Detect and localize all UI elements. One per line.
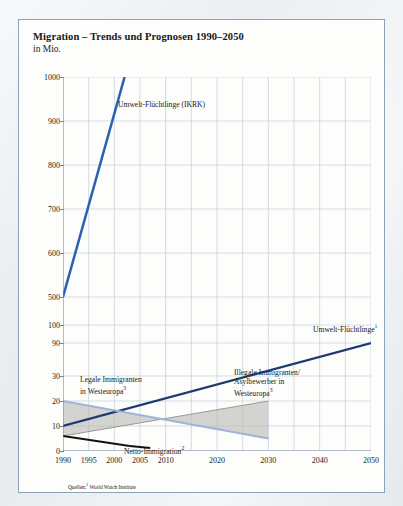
y-tick-1000: 1000 [44,73,60,82]
annotation-umwelt-right-text: Umwelt-Flüchtlinge [313,325,375,334]
chart-title: Migration – Trends und Prognosen 1990–20… [33,31,244,42]
figure-panel: Migration – Trends und Prognosen 1990–20… [18,19,385,493]
footnote-1-text: World Watch Institute [90,484,136,490]
annotation-legale-line1: Legale Immigranten [80,375,142,384]
footnote-1: Quellen:1 World Watch Institute [68,481,385,491]
annotation-umwelt-ikrk: Umwelt-Flüchtlinge (IKRK) [118,100,205,109]
x-tick-2010: 2010 [158,456,174,465]
footnote-quellen-label: Quellen: [68,484,86,490]
annotation-legale-immigranten: Legale Immigrantenin Westeuropa3 [80,375,142,396]
annotation-umwelt-right-sup: 1 [375,323,378,329]
annotation-legale-sup: 3 [123,385,126,391]
y-tick-20: 20 [52,397,60,406]
x-tick-2030: 2030 [260,456,276,465]
y-tick-900: 900 [48,117,60,126]
y-tick-90: 90 [52,339,60,348]
footnotes: Quellen:1 World Watch Institute 2 Weltba… [68,481,385,493]
footnote-2-sup: 2 [73,492,75,493]
annotation-illegale-line3: Westeuropa [234,389,270,398]
x-axis-labels: 199019952000200520102020203020402050 [63,456,383,470]
y-tick-10: 10 [52,422,60,431]
x-tick-2040: 2040 [312,456,328,465]
x-tick-2005: 2005 [132,456,148,465]
footnote-2: 2 Weltbank (legale und illegale Netto-Im… [68,491,385,493]
annotation-legale-line2: in Westeuropa [80,387,123,396]
y-tick-mark-0 [60,451,64,452]
y-tick-700: 700 [48,205,60,214]
chart-subtitle: in Mio. [33,44,244,54]
x-tick-1990: 1990 [55,456,71,465]
x-tick-1995: 1995 [81,456,97,465]
annotation-illegale-sup: 3 [270,387,273,393]
title-block: Migration – Trends und Prognosen 1990–20… [33,31,244,54]
y-tick-100: 100 [48,321,60,330]
footnote-1-sup: 1 [86,482,88,487]
x-tick-2000: 2000 [106,456,122,465]
y-tick-500: 500 [48,293,60,302]
annotation-netto-immigration: Netto-Immigration2 [124,444,184,456]
y-axis-labels: 0102030901005006007008009001000 [19,77,60,451]
annotation-illegale-line2: Asylbewerber in [234,377,284,386]
y-tick-30: 30 [52,372,60,381]
annotation-illegale-line1: Illegale Immigranten/ [234,368,300,377]
y-tick-600: 600 [48,249,60,258]
annotation-illegale-immigranten: Illegale Immigranten/Asylbewerber inWest… [234,368,300,398]
annotation-netto-sup: 2 [181,445,184,451]
annotation-netto-text: Netto-Immigration [124,447,181,456]
x-tick-2050: 2050 [363,456,379,465]
y-tick-800: 800 [48,161,60,170]
x-tick-2020: 2020 [209,456,225,465]
annotation-umwelt-right: Umwelt-Flüchtlinge1 [313,322,377,334]
